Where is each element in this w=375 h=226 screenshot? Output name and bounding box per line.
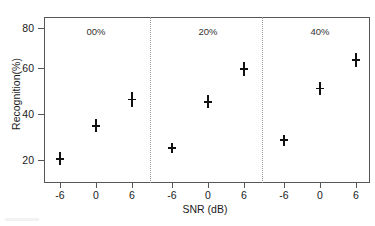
marker-vertical (207, 99, 210, 105)
y-tick-label-60: 60 (8, 62, 34, 74)
y-tick-mark (38, 28, 44, 29)
y-axis-title: Recognition(%) (10, 34, 22, 154)
y-tick-mark (38, 68, 44, 69)
x-tick-label: 0 (308, 189, 332, 201)
x-tick-mark (172, 183, 173, 188)
x-tick-mark (132, 183, 133, 188)
y-tick-mark (38, 160, 44, 161)
panel-label-0: 00% (72, 26, 120, 37)
x-tick-mark (356, 183, 357, 188)
data-point (128, 92, 136, 107)
y-tick-label-40: 40 (8, 108, 34, 120)
x-tick-mark (320, 183, 321, 188)
data-point (168, 143, 176, 153)
y-tick-label-20: 20 (8, 154, 34, 166)
y-tick-label-80: 80 (8, 22, 34, 34)
data-point (280, 135, 288, 146)
recognition-vs-snr-chart: Recognition(%) 80 60 40 20 -6 0 6 -6 0 6… (0, 0, 375, 226)
data-point (56, 152, 64, 165)
marker-vertical (319, 85, 322, 91)
marker-vertical (283, 137, 286, 143)
x-tick-label: 6 (120, 189, 144, 201)
marker-vertical (355, 57, 358, 63)
panel-label-2: 40% (296, 26, 344, 37)
data-point (204, 95, 212, 108)
x-axis-title: SNR (dB) (40, 203, 370, 215)
data-point (352, 53, 360, 67)
data-point (240, 62, 248, 76)
marker-vertical (171, 145, 174, 151)
marker-vertical (59, 156, 62, 162)
marker-vertical (131, 96, 134, 102)
data-point (92, 119, 100, 132)
x-tick-mark (208, 183, 209, 188)
x-tick-label: -6 (272, 189, 296, 201)
x-tick-mark (244, 183, 245, 188)
data-point (316, 82, 324, 95)
marker-vertical (243, 66, 246, 72)
x-tick-label: -6 (48, 189, 72, 201)
x-tick-mark (60, 183, 61, 188)
x-tick-label: 6 (232, 189, 256, 201)
panel-divider-1 (150, 17, 152, 183)
x-tick-label: 6 (344, 189, 368, 201)
marker-vertical (95, 123, 98, 129)
panel-label-1: 20% (184, 26, 232, 37)
panel-divider-2 (262, 17, 264, 183)
x-tick-label: 0 (196, 189, 220, 201)
x-tick-mark (96, 183, 97, 188)
scan-artifact (5, 218, 39, 221)
x-tick-label: 0 (84, 189, 108, 201)
x-tick-mark (284, 183, 285, 188)
y-tick-mark (38, 114, 44, 115)
x-tick-label: -6 (160, 189, 184, 201)
